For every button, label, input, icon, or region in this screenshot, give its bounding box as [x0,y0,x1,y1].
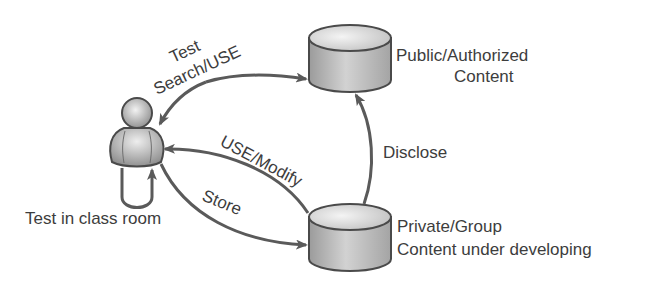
public-content-cylinder[interactable] [309,25,391,92]
public-content-label-line1: Public/Authorized [396,46,528,65]
public-content-label-line2: Content [454,67,514,86]
self-loop-arrow[interactable] [122,168,152,208]
diagram-canvas: Test Search/USE USE/Modify Store Disclos… [0,0,647,286]
search-use-arrow[interactable] [206,75,306,82]
private-content-label-line1: Private/Group [397,217,502,236]
self-loop-label: Test in class room [25,209,161,228]
disclose-label: Disclose [383,143,447,162]
disclose-arrow[interactable] [356,95,372,204]
use-modify-label: USE/Modify [217,132,306,191]
private-content-label-line2: Content under developing [397,240,592,259]
private-content-cylinder[interactable] [309,204,391,271]
person-icon[interactable] [110,98,163,167]
